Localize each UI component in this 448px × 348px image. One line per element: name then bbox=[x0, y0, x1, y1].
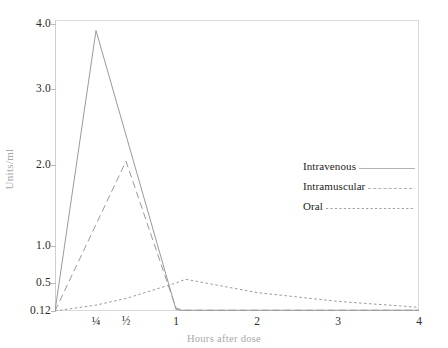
legend-item-oral[interactable]: Oral bbox=[303, 196, 415, 216]
legend-item-intravenous[interactable]: Intravenous bbox=[303, 156, 415, 176]
legend-label: Intramuscular bbox=[303, 180, 365, 192]
y-tick-label: 0.5 bbox=[5, 277, 51, 289]
series-line-oral bbox=[55, 279, 419, 311]
y-tick-mark bbox=[51, 89, 56, 90]
y-tick-mark bbox=[51, 24, 56, 25]
legend-label: Oral bbox=[303, 200, 323, 212]
y-tick-mark bbox=[51, 246, 56, 247]
y-tick-label: 1.0 bbox=[5, 240, 51, 252]
x-tick-label: 4 bbox=[399, 316, 439, 328]
chart-legend: IntravenousIntramuscularOral bbox=[303, 156, 415, 216]
x-axis-title: Hours after dose bbox=[0, 333, 448, 344]
y-tick-label: 3.0 bbox=[5, 83, 51, 95]
y-axis-title: Units/ml bbox=[3, 139, 15, 199]
legend-item-intramuscular[interactable]: Intramuscular bbox=[303, 176, 415, 196]
legend-swatch-dotted bbox=[326, 207, 415, 208]
legend-swatch-dashed bbox=[368, 187, 415, 188]
chart-container: 0.120.51.02.03.04.0 Units/ml ¼½1234 Hour… bbox=[0, 0, 448, 348]
y-tick-mark bbox=[51, 283, 56, 284]
legend-label: Intravenous bbox=[303, 160, 356, 172]
y-tick-mark bbox=[51, 311, 56, 312]
x-tick-label: ½ bbox=[106, 316, 146, 328]
y-tick-label: 4.0 bbox=[5, 18, 51, 30]
y-tick-mark bbox=[51, 165, 56, 166]
x-tick-label: 1 bbox=[156, 316, 196, 328]
legend-swatch-solid bbox=[359, 167, 415, 168]
x-tick-label: 2 bbox=[237, 316, 277, 328]
y-tick-label: 0.12 bbox=[5, 305, 51, 317]
x-tick-label: 3 bbox=[318, 316, 358, 328]
